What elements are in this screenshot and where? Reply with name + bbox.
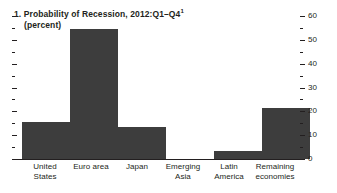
y-axis-tick-minor: [12, 147, 15, 148]
y-axis-tick-minor: [300, 28, 303, 29]
y-axis-tick-major: [12, 16, 17, 17]
bar-slot-united-states: [22, 16, 70, 159]
recession-probability-chart: 1. Probability of Recession, 2012:Q1–Q41…: [0, 0, 337, 193]
bar-slot-emerging-asia: [166, 16, 214, 159]
x-axis-category-label: Japan: [114, 162, 160, 182]
bars-layer: [22, 16, 298, 159]
y-axis-tick-minor: [12, 76, 15, 77]
y-axis-tick-major: [12, 64, 17, 65]
y-axis-label: 50: [308, 36, 317, 44]
plot-area: [22, 16, 298, 159]
bar-latin-america: [214, 151, 262, 159]
y-axis-tick-major: [12, 159, 17, 160]
y-axis-tick-minor: [300, 147, 303, 148]
y-axis-tick-major: [300, 135, 305, 136]
chart-title-footnote-marker: 1: [180, 8, 183, 14]
y-axis-tick-minor: [12, 28, 15, 29]
y-axis-tick-minor: [300, 99, 303, 100]
y-axis-tick-major: [300, 64, 305, 65]
y-axis-tick-major: [300, 88, 305, 89]
y-axis-tick-major: [12, 111, 17, 112]
y-axis-label: 20: [308, 107, 317, 115]
y-axis-label: 40: [308, 60, 317, 68]
y-axis-tick-major: [300, 16, 305, 17]
bar-slot-japan: [118, 16, 166, 159]
bar-slot-euro-area: [70, 16, 118, 159]
y-axis-tick-major: [12, 40, 17, 41]
y-axis-tick-minor: [12, 99, 15, 100]
x-axis-category-label: Emerging Asia: [160, 162, 206, 182]
x-axis-category-label: Remaining economies: [252, 162, 298, 182]
y-axis-tick-major: [12, 88, 17, 89]
bar-slot-latin-america: [214, 16, 262, 159]
x-axis-category-label: United States: [22, 162, 68, 182]
y-axis-ticks-right: [300, 16, 308, 159]
y-axis-tick-major: [300, 40, 305, 41]
y-axis-label: 0: [308, 155, 313, 163]
y-axis-tick-minor: [12, 52, 15, 53]
bar-euro-area: [70, 29, 118, 159]
x-axis-category-labels: United StatesEuro areaJapanEmerging Asia…: [22, 162, 298, 182]
y-axis-label: 60: [308, 12, 317, 20]
x-axis-category-label: Euro area: [68, 162, 114, 182]
y-axis-tick-major: [300, 159, 305, 160]
bar-japan: [118, 127, 166, 159]
x-axis-baseline: [14, 159, 304, 160]
y-axis-tick-major: [12, 135, 17, 136]
y-axis-tick-minor: [300, 52, 303, 53]
y-axis-ticks-left: [12, 16, 20, 159]
bar-united-states: [22, 122, 70, 159]
y-axis-label: 30: [308, 84, 317, 92]
y-axis-tick-minor: [300, 123, 303, 124]
y-axis-tick-major: [300, 111, 305, 112]
y-axis-labels: 0102030405060: [308, 16, 334, 159]
y-axis-tick-minor: [12, 123, 15, 124]
y-axis-label: 10: [308, 131, 317, 139]
y-axis-tick-minor: [300, 76, 303, 77]
x-axis-category-label: Latin America: [206, 162, 252, 182]
